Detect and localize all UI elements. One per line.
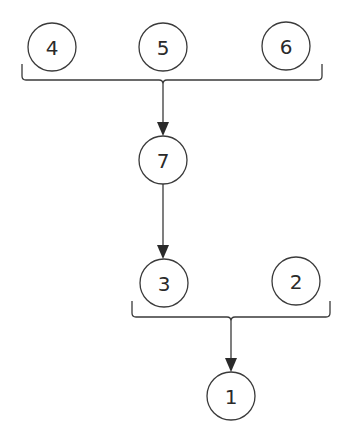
node-2: 2 <box>272 257 320 305</box>
node-7: 7 <box>139 136 187 184</box>
node-6: 6 <box>262 22 310 70</box>
node-label: 4 <box>46 36 59 60</box>
node-label: 6 <box>280 35 293 59</box>
node-5: 5 <box>139 23 187 71</box>
node-label: 1 <box>225 385 238 409</box>
node-4: 4 <box>28 23 76 71</box>
arrowhead-icon <box>225 358 237 372</box>
node-1: 1 <box>207 372 255 420</box>
arrowhead-icon <box>157 122 169 136</box>
node-3: 3 <box>140 259 188 307</box>
node-label: 2 <box>290 270 303 294</box>
node-label: 3 <box>158 272 171 296</box>
node-label: 5 <box>157 36 170 60</box>
arrowhead-icon <box>157 245 169 259</box>
node-label: 7 <box>157 149 170 173</box>
diagram-canvas: 4 5 6 7 3 2 1 <box>0 0 349 438</box>
